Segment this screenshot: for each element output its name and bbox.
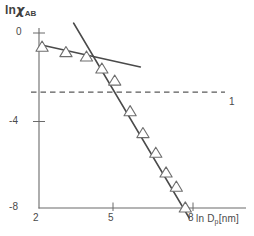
x-axis-label: ln Dp[nm] <box>196 214 239 225</box>
x-tick-label-2: 2 <box>33 213 39 223</box>
x-tick-label-8: 8 <box>188 213 194 223</box>
y-axis-label-prefix: ln <box>5 3 16 17</box>
fit-line-shallow <box>42 45 141 67</box>
chart-figure: lnχAB ln Dp[nm] 0 -4 -8 2 5 8 1 <box>0 0 254 236</box>
y-axis-label-subscript: AB <box>25 9 37 18</box>
x-axis-label-units: [nm] <box>219 213 239 224</box>
y-axis-label: lnχAB <box>5 3 36 18</box>
data-point <box>150 147 162 157</box>
y-tick-label-0: 0 <box>16 27 22 37</box>
data-point <box>170 181 182 191</box>
x-tick-label-5: 5 <box>108 213 114 223</box>
x-axis-label-prefix: ln D <box>196 213 215 224</box>
y-tick-label-minus4: -4 <box>9 116 18 126</box>
y-tick-label-minus8: -8 <box>9 202 18 212</box>
data-point <box>109 75 121 85</box>
data-series-markers <box>36 41 191 212</box>
plot-canvas <box>0 0 254 236</box>
chi-symbol: χ <box>16 2 25 17</box>
reference-line-annotation: 1 <box>229 97 235 107</box>
